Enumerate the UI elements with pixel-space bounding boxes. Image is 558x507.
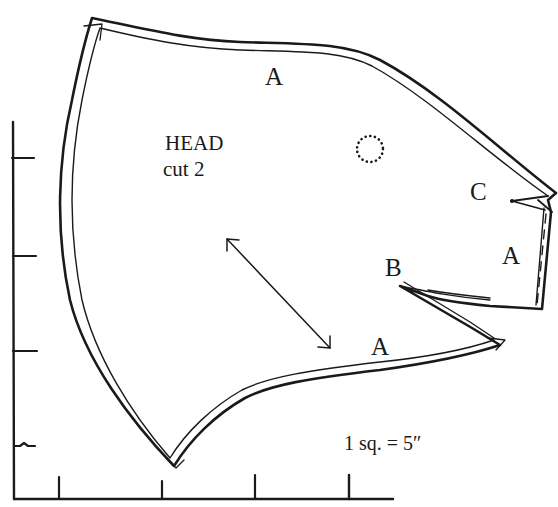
seam-label-bottom: A [371,334,389,359]
cut-instruction: cut 2 [163,159,204,180]
vertical-axis [13,122,14,499]
dart-label-c: C [470,179,487,204]
cutting-line [60,18,556,466]
v-tick [14,443,35,446]
dart-c [512,196,552,212]
scale-note: 1 sq. = 5″ [344,433,421,453]
grainline-arrow-icon [227,239,330,348]
eye-placement-icon [357,136,383,162]
cropped-caption [0,0,558,6]
piece-name: HEAD [165,133,223,154]
dart-c-point [510,199,513,202]
dart-label-b: B [385,255,402,280]
seam-line [72,28,548,458]
pattern-canvas: A HEAD cut 2 C A B A 1 sq. = 5″ [0,0,558,507]
seam-label-top: A [265,64,283,89]
seam-label-right: A [502,243,520,268]
